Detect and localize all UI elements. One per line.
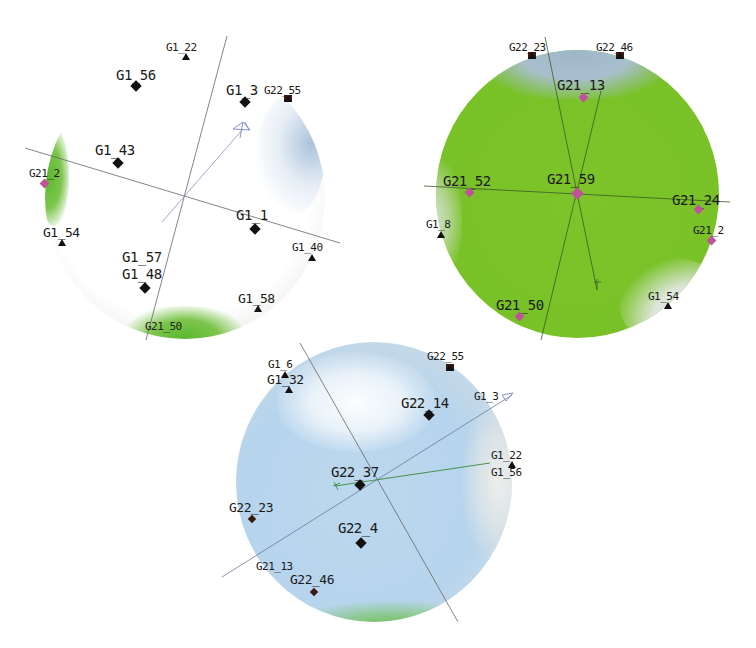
point-label: G21_50 [145, 321, 182, 332]
point-label: G1_22 [166, 42, 197, 53]
point-label: G22_4 [338, 521, 378, 535]
point-label: G1_58 [238, 292, 275, 305]
green-region [256, 594, 486, 622]
point-label: G1_1 [236, 208, 268, 222]
point-label: G1_54 [648, 291, 679, 302]
point-label: G21_13 [557, 78, 605, 92]
point-label: G1_6 [268, 359, 293, 370]
point-label: G21_13 [256, 561, 293, 572]
point-marker [58, 239, 66, 246]
point-label: G22_46 [290, 573, 334, 586]
point-marker [254, 305, 262, 312]
green-region [125, 306, 245, 339]
sphere-g1 [45, 56, 325, 339]
point-label: G22_55 [264, 85, 301, 96]
arrow-head-icon [502, 393, 513, 401]
point-label: G1_43 [95, 143, 135, 157]
point-marker [528, 52, 536, 59]
point-label: G1_22 [491, 450, 522, 461]
point-label: G22_37 [331, 465, 379, 479]
point-label: G1_56 [491, 467, 522, 478]
figure-caption [150, 632, 610, 644]
white-region [462, 402, 512, 562]
point-label: G1_3 [474, 391, 499, 402]
point-label: G21_2 [693, 225, 724, 236]
point-label: G22_14 [401, 396, 449, 410]
point-marker [616, 52, 624, 59]
point-label: G21_2 [29, 168, 60, 179]
blue-region [255, 96, 325, 216]
point-label: G22_55 [427, 351, 464, 362]
point-label: G21_50 [496, 298, 544, 312]
point-marker [437, 231, 445, 238]
point-label: G1_54 [43, 226, 80, 239]
point-label: G1_48 [122, 267, 162, 281]
point-label: G22_23 [229, 501, 273, 514]
point-label: G22_46 [596, 42, 633, 53]
point-label: G1_8 [426, 219, 451, 230]
point-label: G21_24 [672, 193, 720, 207]
point-label: G21_59 [547, 172, 595, 186]
point-marker [182, 53, 190, 60]
point-label: G1_3 [226, 83, 258, 97]
point-marker [285, 386, 293, 393]
point-label: G1_40 [292, 242, 323, 253]
point-label: G21_52 [443, 174, 491, 188]
point-marker [284, 95, 292, 102]
point-label: G1_32 [267, 373, 304, 386]
point-label: G1_57 [122, 250, 162, 264]
point-marker [664, 302, 672, 309]
point-marker [446, 364, 454, 371]
point-marker [308, 254, 316, 261]
